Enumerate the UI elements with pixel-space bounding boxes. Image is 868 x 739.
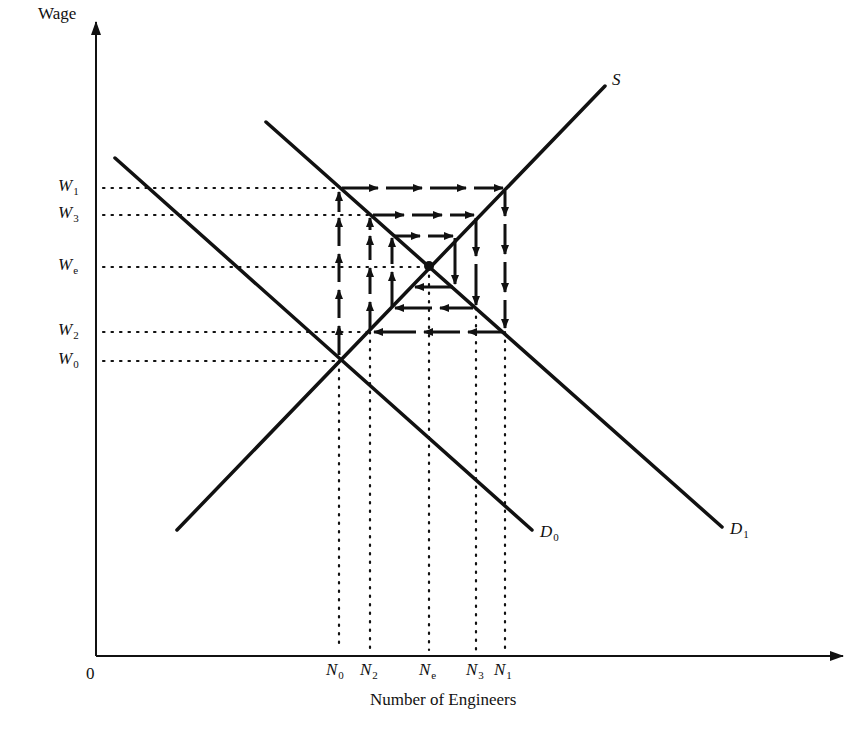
quantity-label-ne: Ne [419, 660, 436, 680]
origin-label: 0 [86, 664, 95, 684]
equilibrium-point [424, 261, 434, 271]
quantity-guides [339, 267, 505, 650]
cobweb-diagram [0, 0, 868, 739]
supply-curve [177, 86, 605, 530]
y-axis-label: Wage [38, 4, 76, 24]
quantity-label-n3: N3 [466, 660, 484, 680]
wage-label-w2: W2 [58, 320, 79, 340]
quantity-label-n1: N1 [494, 660, 512, 680]
quantity-label-n2: N2 [360, 660, 378, 680]
demand-curve-d1 [266, 122, 722, 527]
quantity-label-n0: N0 [326, 660, 344, 680]
wage-label-w1: W1 [58, 176, 79, 196]
x-axis-label: Number of Engineers [370, 690, 516, 710]
demand-d1-label: D1 [730, 519, 749, 539]
wage-label-we: We [58, 255, 78, 275]
wage-label-w0: W0 [58, 349, 79, 369]
wage-label-w3: W3 [58, 203, 79, 223]
supply-label: S [612, 70, 621, 90]
demand-d0-label: D0 [540, 522, 559, 542]
